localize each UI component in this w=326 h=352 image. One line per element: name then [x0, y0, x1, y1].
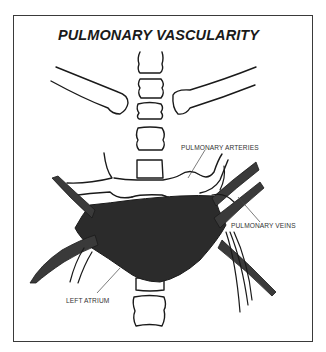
label-pulmonary-arteries: PULMONARY ARTERIES — [181, 144, 259, 151]
vertebra-5 — [137, 160, 163, 178]
vertebra-2 — [139, 79, 164, 98]
diagram-title: PULMONARY VASCULARITY — [58, 27, 259, 43]
label-pulmonary-veins: PULMONARY VEINS — [231, 222, 296, 229]
vertebra-1 — [138, 52, 163, 73]
pulmonary-artery-trunk — [114, 154, 222, 180]
pulmonary-artery-left-branch — [67, 153, 112, 183]
pulmonary-vasculature-illustration — [0, 0, 326, 352]
vertebra-3 — [137, 103, 162, 120]
label-left-atrium: LEFT ATRIUM — [66, 297, 109, 304]
vertebra-4 — [137, 127, 165, 150]
left-atrium — [75, 196, 226, 283]
pulmonary-vein-right-upper — [212, 162, 259, 206]
vessel-left-2 — [78, 252, 92, 283]
leader-line-arteries — [188, 150, 205, 178]
leader-line-atrium — [97, 268, 120, 293]
clavicle-right — [173, 67, 256, 114]
vertebra-7 — [133, 296, 165, 327]
vessel-right-1 — [226, 232, 240, 312]
clavicle-left — [51, 67, 128, 114]
